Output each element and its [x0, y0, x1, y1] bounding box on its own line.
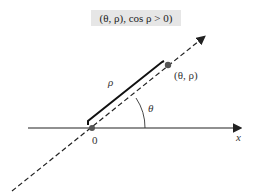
- theta-label: θ: [148, 102, 153, 114]
- point-label: (θ, ρ): [174, 69, 198, 81]
- origin-point: [89, 125, 95, 131]
- x-axis-label: x: [236, 131, 241, 143]
- rho-label: ρ: [108, 76, 113, 88]
- polar-ray: [12, 37, 204, 191]
- theta-arc: [136, 98, 145, 128]
- polar-diagram: [0, 0, 272, 192]
- rho-bracket: [88, 61, 164, 125]
- polar-point: [165, 62, 171, 68]
- origin-label: 0: [92, 134, 98, 146]
